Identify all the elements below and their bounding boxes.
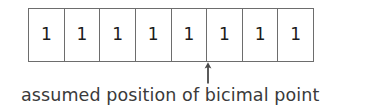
bit-cell: 1 (278, 9, 313, 61)
bit-cell: 1 (29, 9, 65, 61)
figure-caption: assumed position of bicimal point (21, 83, 371, 107)
bit-cell: 1 (136, 9, 172, 61)
up-arrow-icon (200, 61, 216, 84)
bit-cell: 1 (100, 9, 136, 61)
bicimal-point-figure: 1 1 1 1 1 1 1 1 assumed position of bici… (0, 0, 382, 111)
bit-value: 1 (255, 26, 266, 43)
bit-value: 1 (183, 26, 194, 43)
bit-value: 1 (41, 26, 52, 43)
bit-value: 1 (219, 26, 230, 43)
bit-cell: 1 (65, 9, 101, 61)
bit-cell: 1 (243, 9, 279, 61)
bit-value: 1 (77, 26, 88, 43)
bit-cell: 1 (207, 9, 243, 61)
bit-value: 1 (112, 26, 123, 43)
bit-cell: 1 (172, 9, 208, 61)
bit-value: 1 (290, 26, 301, 43)
bit-value: 1 (148, 26, 159, 43)
bit-cell-table: 1 1 1 1 1 1 1 1 (28, 8, 314, 62)
